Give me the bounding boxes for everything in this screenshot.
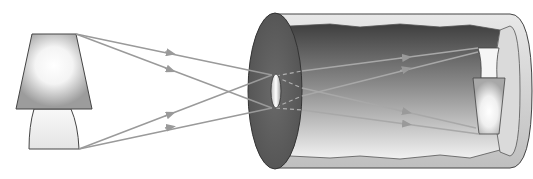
lamp-base [29, 109, 79, 149]
light-rays [76, 34, 272, 149]
pinhole-camera-diagram [0, 0, 533, 179]
lamp-object [16, 34, 92, 149]
image-base [478, 48, 499, 78]
image-shade [473, 78, 505, 134]
pinhole-aperture [271, 74, 281, 108]
lamp-shade [16, 34, 92, 109]
